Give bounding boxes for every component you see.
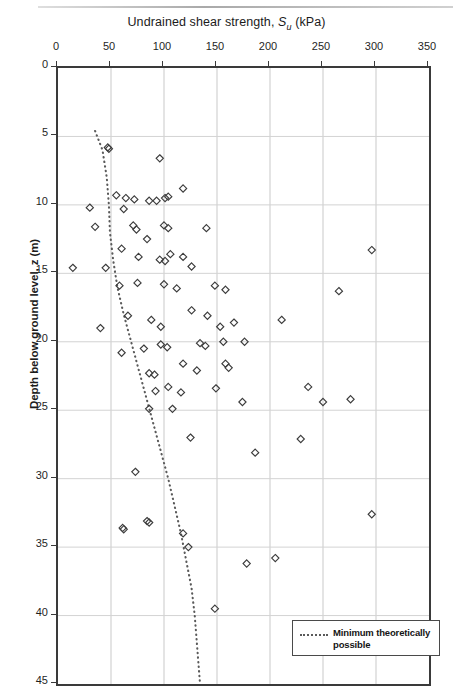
data-point-marker [146, 197, 153, 204]
data-point-marker [153, 197, 160, 204]
figure-page: Undrained shear strength, Su (kPa) Depth… [0, 0, 453, 697]
data-point-marker [243, 560, 250, 567]
y-axis-tick-mark [51, 682, 57, 683]
x-axis-tick-label: 50 [89, 40, 129, 52]
x-axis-tick-label: 200 [248, 40, 288, 52]
data-point-marker [124, 312, 131, 319]
data-point-marker [212, 385, 219, 392]
data-point-marker [368, 246, 375, 253]
data-point-marker [278, 316, 285, 323]
data-point-marker [167, 251, 174, 258]
data-point-marker [220, 338, 227, 345]
legend-entry: Minimum theoretically possible [300, 627, 436, 650]
data-point-marker [230, 319, 237, 326]
data-point-marker [203, 225, 210, 232]
data-point-marker [130, 222, 137, 229]
data-point-marker [102, 264, 109, 271]
y-axis-tick-mark [51, 271, 57, 272]
legend-entry-label: Minimum theoretically possible [333, 627, 436, 650]
data-point-marker [185, 544, 192, 551]
data-point-marker [140, 345, 147, 352]
data-point-marker [225, 364, 232, 371]
x-axis-tick-label: 100 [142, 40, 182, 52]
y-axis-tick-mark [51, 203, 57, 204]
data-point-marker [169, 405, 176, 412]
data-point-marker [347, 396, 354, 403]
x-axis-tick-mark [374, 61, 375, 67]
data-point-marker [152, 387, 159, 394]
y-axis-tick-mark [51, 477, 57, 478]
data-point-marker [335, 288, 342, 295]
data-point-marker [113, 192, 120, 199]
data-point-marker [222, 360, 229, 367]
data-point-marker [211, 282, 218, 289]
data-point-marker [179, 253, 186, 260]
x-axis-tick-mark [215, 61, 216, 67]
data-point-marker [120, 205, 127, 212]
data-point-marker [239, 398, 246, 405]
y-axis-tick-label: 5 [14, 126, 48, 138]
x-axis-tick-label: 250 [301, 40, 341, 52]
data-point-marker [368, 511, 375, 518]
data-point-marker [187, 434, 194, 441]
data-point-marker [211, 605, 218, 612]
y-axis-tick-mark [51, 614, 57, 615]
chart-title-suffix: (kPa) [292, 15, 326, 29]
data-point-marker [193, 367, 200, 374]
data-point-marker [156, 155, 163, 162]
data-point-marker [133, 226, 140, 233]
x-axis-tick-label: 150 [195, 40, 235, 52]
data-point-marker [179, 185, 186, 192]
data-point-marker [160, 281, 167, 288]
data-point-marker [217, 323, 224, 330]
x-axis-tick-mark [268, 61, 269, 67]
data-point-marker [122, 194, 129, 201]
y-axis-tick-label: 25 [14, 400, 48, 412]
data-point-marker [134, 279, 141, 286]
data-point-marker [252, 449, 259, 456]
data-point-marker [179, 360, 186, 367]
data-point-marker [118, 349, 125, 356]
data-point-marker [319, 398, 326, 405]
data-layer [58, 68, 429, 684]
data-point-marker [241, 338, 248, 345]
x-axis-tick-mark [109, 61, 110, 67]
y-axis-tick-mark [51, 340, 57, 341]
data-point-marker [69, 264, 76, 271]
y-axis-tick-mark [51, 408, 57, 409]
x-axis-tick-label: 0 [36, 40, 76, 52]
plot-area [56, 66, 431, 686]
y-axis-tick-label: 45 [14, 674, 48, 686]
data-point-marker [92, 223, 99, 230]
data-point-marker [222, 286, 229, 293]
legend-box: Minimum theoretically possible [292, 620, 440, 656]
scan-edge-artifact [38, 6, 453, 8]
y-axis-tick-mark [51, 134, 57, 135]
y-axis-tick-label: 35 [14, 537, 48, 549]
x-axis-tick-label: 300 [354, 40, 394, 52]
y-axis-tick-label: 0 [14, 58, 48, 70]
data-point-marker [97, 324, 104, 331]
data-point-marker [297, 435, 304, 442]
data-point-marker [173, 285, 180, 292]
x-axis-tick-mark [162, 61, 163, 67]
data-point-marker [165, 225, 172, 232]
x-axis-tick-label: 350 [407, 40, 447, 52]
y-axis-tick-label: 15 [14, 263, 48, 275]
data-point-marker [204, 312, 211, 319]
chart-title-symbol: S [278, 15, 286, 29]
data-point-marker [131, 196, 138, 203]
y-axis-tick-label: 10 [14, 195, 48, 207]
data-point-marker [305, 383, 312, 390]
y-axis-tick-label: 20 [14, 332, 48, 344]
data-point-marker [177, 389, 184, 396]
y-axis-tick-label: 30 [14, 469, 48, 481]
data-point-marker [148, 316, 155, 323]
data-point-marker [118, 245, 125, 252]
dotted-line-icon [300, 629, 328, 641]
data-point-marker [160, 222, 167, 229]
x-axis-tick-mark [427, 61, 428, 67]
y-axis-tick-mark [51, 545, 57, 546]
y-axis-tick-mark [51, 66, 57, 67]
data-point-marker [143, 236, 150, 243]
